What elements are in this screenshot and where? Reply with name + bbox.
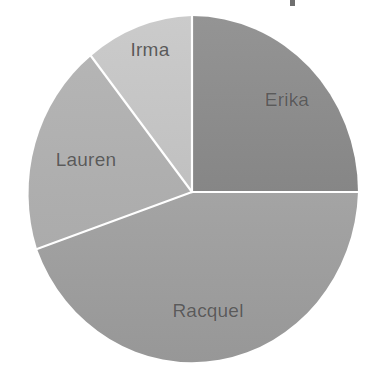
pie-label-racquel: Racquel: [172, 300, 243, 322]
pie-chart: Erika Racquel Lauren Irma: [0, 0, 380, 378]
pie-label-irma: Irma: [131, 39, 170, 61]
pie-chart-screenshot: Erika Racquel Lauren Irma: [0, 0, 380, 378]
pie-label-lauren: Lauren: [56, 149, 116, 171]
pie-label-erika: Erika: [265, 89, 309, 111]
